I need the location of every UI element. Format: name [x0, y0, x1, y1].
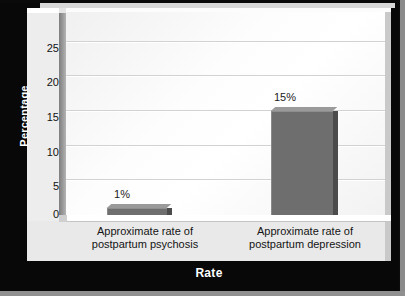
value-label-postpartum-psychosis: 1%	[82, 188, 162, 200]
y-axis-gutter-top-bevel	[27, 8, 59, 13]
bar-postpartum-psychosis[interactable]	[107, 208, 167, 215]
category-label-line2: postpartum psychosis	[66, 238, 224, 251]
y-axis-line	[59, 12, 66, 215]
plot-area	[66, 12, 385, 215]
bar-side-face	[167, 208, 172, 215]
y-axis-tick-gutter: 25 20 15 10 5 0	[27, 12, 59, 221]
category-label-line1: Approximate rate of	[66, 225, 224, 238]
bar-side-face	[333, 111, 338, 215]
category-label-line2: postpartum depression	[225, 238, 385, 251]
y-tick-label-10: 10	[33, 147, 59, 158]
gridline-20-highlight	[66, 76, 385, 77]
bar-postpartum-depression[interactable]	[271, 111, 333, 215]
frame-right-edge	[400, 0, 405, 296]
chart-frame: 25 20 15 10 5 0 1%	[0, 0, 405, 296]
category-label-line1: Approximate rate of	[225, 225, 385, 238]
bar-front-face	[271, 111, 333, 215]
gridline-25-highlight	[66, 42, 385, 43]
y-tick-label-15: 15	[33, 112, 59, 123]
x-axis-floor	[59, 215, 391, 222]
frame-bottom-edge	[0, 291, 405, 296]
value-label-postpartum-depression: 15%	[245, 91, 325, 103]
category-label-postpartum-depression: Approximate rate of postpartum depressio…	[225, 225, 385, 251]
bar-front-face	[107, 208, 167, 215]
y-tick-label-5: 5	[33, 181, 59, 192]
x-axis-floor-corner	[59, 215, 67, 222]
y-axis-title: Percentage	[18, 66, 30, 166]
y-tick-label-20: 20	[33, 77, 59, 88]
y-tick-label-0: 0	[33, 209, 59, 220]
y-tick-label-25: 25	[33, 43, 59, 54]
category-label-postpartum-psychosis: Approximate rate of postpartum psychosis	[66, 225, 224, 251]
plot-panel-right-bevel	[385, 8, 391, 261]
y-axis-line-cap	[59, 8, 66, 13]
x-axis-title: Rate	[27, 266, 391, 280]
